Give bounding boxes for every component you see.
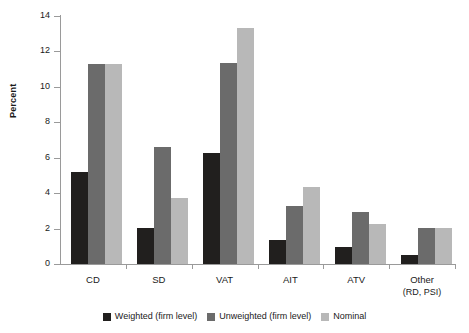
y-axis-tick-label: 2	[45, 223, 50, 234]
bar	[237, 28, 254, 264]
bar-group-sd	[137, 16, 188, 264]
x-axis-label-text: ATV	[347, 274, 365, 285]
legend-label: Nominal	[333, 311, 366, 322]
bar	[303, 187, 320, 264]
y-axis-tick-label: 0	[45, 258, 50, 269]
bar	[71, 172, 88, 264]
bar-group-vat	[203, 16, 254, 264]
x-axis-label-atv: ATV	[323, 274, 389, 286]
bar	[171, 198, 188, 264]
x-axis-label-text: VAT	[216, 274, 233, 285]
legend-item-1: Weighted (firm level)	[103, 311, 197, 322]
bar	[435, 228, 452, 264]
bar	[105, 64, 122, 264]
legend-swatch-icon	[103, 313, 111, 321]
bar	[401, 255, 418, 264]
bar	[352, 212, 369, 264]
legend-label: Unweighted (firm level)	[219, 311, 311, 322]
cropped-title-remnant	[0, 0, 469, 7]
x-axis-label-text: SD	[152, 274, 165, 285]
x-axis-label-text: CD	[86, 274, 100, 285]
x-axis-sublabel-text: (RD, PSI)	[389, 286, 455, 298]
bar-group-cd	[71, 16, 122, 264]
bar-group-atv	[335, 16, 386, 264]
bar	[369, 224, 386, 264]
x-axis-tick	[192, 264, 193, 269]
legend-item-2: Unweighted (firm level)	[207, 311, 311, 322]
x-axis-tick	[455, 264, 456, 269]
plot-area	[60, 16, 455, 264]
bar	[154, 147, 171, 264]
x-axis-label-vat: VAT	[192, 274, 258, 286]
x-axis-tick	[323, 264, 324, 269]
x-axis-label-text: AIT	[283, 274, 298, 285]
x-axis-label-text: Other	[410, 274, 434, 285]
bar	[88, 64, 105, 264]
y-axis-tick-label: 6	[45, 152, 50, 163]
chart-legend: Weighted (firm level)Unweighted (firm le…	[0, 311, 469, 322]
x-axis-label-other: Other(RD, PSI)	[389, 274, 455, 298]
legend-swatch-icon	[207, 313, 215, 321]
bar	[137, 228, 154, 264]
x-axis-label-cd: CD	[60, 274, 126, 286]
x-axis-label-ait: AIT	[258, 274, 324, 286]
bar-group-other	[401, 16, 452, 264]
x-axis-tick	[258, 264, 259, 269]
legend-item-3: Nominal	[321, 311, 366, 322]
y-axis-tick-label: 4	[45, 187, 50, 198]
y-axis-title: Percent	[8, 84, 18, 118]
y-axis-tick-label: 14	[40, 10, 50, 21]
y-axis-tick-label: 10	[40, 81, 50, 92]
legend-label: Weighted (firm level)	[115, 311, 197, 322]
y-axis-tick-label: 8	[45, 116, 50, 127]
bar	[203, 153, 220, 264]
legend-swatch-icon	[321, 313, 329, 321]
x-axis-label-sd: SD	[126, 274, 192, 286]
bar	[220, 63, 237, 264]
bar	[286, 206, 303, 264]
bar-group-ait	[269, 16, 320, 264]
y-axis-tick-label: 12	[40, 45, 50, 56]
x-axis-tick	[389, 264, 390, 269]
bar-chart: Percent 02468101214 CDSDVATAITATVOther(R…	[0, 0, 469, 333]
y-axis-tick: 0	[54, 264, 60, 265]
x-axis-tick	[126, 264, 127, 269]
bar	[418, 228, 435, 264]
bar	[335, 247, 352, 264]
bar	[269, 240, 286, 264]
